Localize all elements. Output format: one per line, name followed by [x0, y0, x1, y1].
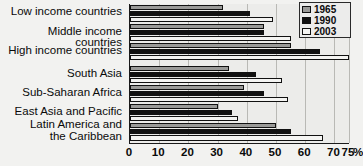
legend-swatch-2003 — [302, 28, 311, 35]
bar-1965-4 — [130, 85, 244, 90]
bar-1965-3 — [130, 66, 229, 71]
x-tick-10: 10 — [152, 146, 165, 158]
bar-1990-0 — [130, 11, 250, 16]
category-label-5: East Asia and Pacific — [15, 106, 122, 118]
bar-2003-4 — [130, 97, 288, 102]
category-label-4: Sub-Saharan Africa — [22, 87, 122, 99]
bar-2003-0 — [130, 17, 273, 22]
legend-swatch-1990 — [302, 17, 311, 24]
x-axis-line — [129, 143, 349, 144]
bar-1965-6 — [130, 123, 276, 128]
bar-1965-5 — [130, 104, 218, 109]
bar-1965-2 — [130, 43, 291, 48]
legend-item: 1990 — [302, 15, 350, 26]
bar-1965-1 — [130, 24, 264, 29]
bar-2003-5 — [130, 116, 238, 121]
x-tick-30: 30 — [210, 146, 223, 158]
x-axis-unit-label: % — [353, 146, 363, 158]
gridline — [276, 4, 277, 143]
legend-label-1990: 1990 — [314, 16, 336, 26]
category-label-3: South Asia — [67, 68, 122, 80]
bar-1990-6 — [130, 129, 291, 134]
chart-legend: 1965 1990 2003 — [299, 2, 351, 38]
legend-swatch-1965 — [302, 6, 311, 13]
x-tick-70: 70 — [327, 146, 340, 158]
x-tick-0: 0 — [126, 146, 132, 158]
x-axis-ticks: 01020304050607075% — [0, 146, 357, 166]
category-axis-labels: Low income countriesMiddle income countr… — [0, 0, 126, 143]
legend-label-1965: 1965 — [314, 5, 336, 15]
bar-1990-3 — [130, 72, 256, 77]
bar-2003-2 — [130, 55, 349, 60]
x-tick-50: 50 — [269, 146, 282, 158]
bar-2003-1 — [130, 36, 291, 41]
x-tick-40: 40 — [239, 146, 252, 158]
bar-1990-5 — [130, 110, 232, 115]
category-label-6: Latin America and the Caribbean — [30, 119, 122, 142]
bar-1990-1 — [130, 30, 264, 35]
legend-item: 2003 — [302, 26, 350, 37]
bar-2003-3 — [130, 78, 282, 83]
legend-label-2003: 2003 — [314, 27, 336, 37]
category-label-0: Low income countries — [11, 6, 122, 18]
category-label-2: High income countries — [8, 45, 122, 57]
bar-2003-6 — [130, 135, 323, 140]
x-tick-20: 20 — [181, 146, 194, 158]
bar-1965-0 — [130, 5, 223, 10]
bar-1990-4 — [130, 91, 264, 96]
bar-1990-2 — [130, 49, 320, 54]
x-tick-60: 60 — [298, 146, 311, 158]
legend-item: 1965 — [302, 4, 350, 15]
